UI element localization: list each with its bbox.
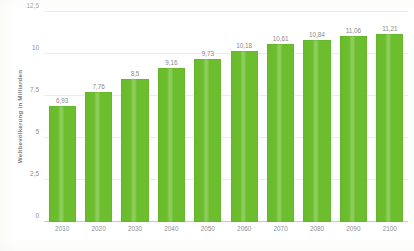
x-tick-label: 2100 <box>372 225 408 232</box>
y-axis-title-label: Weltbevölkerung in Milliarden <box>17 69 24 162</box>
bar-group[interactable]: 9,73 <box>194 12 221 222</box>
bar-group[interactable]: 8,5 <box>121 12 148 222</box>
y-tick-label: 0 <box>35 212 39 219</box>
x-tick-label: 2020 <box>80 225 116 232</box>
x-tick-label: 2040 <box>153 225 189 232</box>
plot-area: 02,557,51012,5 6,937,768,59,169,7310,181… <box>44 12 408 222</box>
bar-value-label: 8,5 <box>131 70 140 77</box>
bar-chart-figure: Weltbevölkerung in Milliarden 02,557,510… <box>0 0 414 251</box>
y-tick-label: 10 <box>32 44 39 51</box>
bar[interactable] <box>267 44 294 222</box>
bar-group[interactable]: 6,93 <box>49 12 76 222</box>
x-tick-label: 2010 <box>44 225 80 232</box>
bar-group[interactable]: 10,84 <box>303 12 330 222</box>
bar-group[interactable]: 11,21 <box>376 12 403 222</box>
y-tick-label: 2,5 <box>30 170 39 177</box>
bar-value-label: 11,21 <box>382 25 397 32</box>
bar-group[interactable]: 11,06 <box>340 12 367 222</box>
bar-value-label: 9,73 <box>202 50 214 57</box>
bar[interactable] <box>376 34 403 222</box>
bar-group[interactable]: 7,76 <box>85 12 112 222</box>
x-tick-label: 2080 <box>299 225 335 232</box>
bar[interactable] <box>194 59 221 222</box>
bar-value-label: 10,84 <box>309 31 325 38</box>
bars-layer: 6,937,768,59,169,7310,1810,6110,8411,061… <box>44 12 408 222</box>
bar-group[interactable]: 10,18 <box>231 12 258 222</box>
x-tick-label: 2090 <box>335 225 371 232</box>
bar[interactable] <box>340 36 367 222</box>
bar-value-label: 11,06 <box>346 27 361 34</box>
y-axis-title: Weltbevölkerung in Milliarden <box>13 0 27 232</box>
y-tick-label: 5 <box>35 128 39 135</box>
bar[interactable] <box>85 92 112 222</box>
bar-value-label: 6,93 <box>56 97 68 104</box>
x-tick-label: 2050 <box>190 225 226 232</box>
bar[interactable] <box>231 51 258 222</box>
x-axis-ticks: 2010202020302040205020602070208020902100 <box>44 225 408 239</box>
bar-value-label: 9,16 <box>165 59 177 66</box>
bar-value-label: 7,76 <box>92 83 104 90</box>
x-tick-label: 2030 <box>117 225 153 232</box>
x-tick-label: 2060 <box>226 225 262 232</box>
y-tick-label: 12,5 <box>27 2 39 9</box>
y-tick-label: 7,5 <box>30 86 39 93</box>
bar[interactable] <box>303 40 330 222</box>
bar[interactable] <box>158 68 185 222</box>
bar-group[interactable]: 9,16 <box>158 12 185 222</box>
bar[interactable] <box>49 106 76 222</box>
bar-group[interactable]: 10,61 <box>267 12 294 222</box>
bar[interactable] <box>121 79 148 222</box>
x-tick-label: 2070 <box>262 225 298 232</box>
bar-value-label: 10,61 <box>273 35 289 42</box>
bar-value-label: 10,18 <box>236 42 252 49</box>
